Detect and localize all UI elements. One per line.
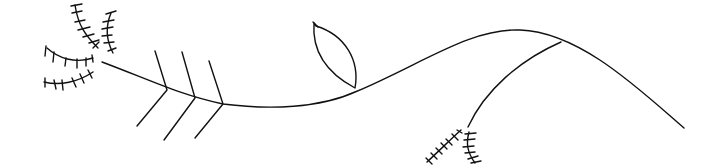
side-branch xyxy=(468,42,561,127)
line-drawing xyxy=(0,0,719,167)
barbed-strokes xyxy=(44,4,481,164)
fletching xyxy=(137,51,223,140)
leaf xyxy=(314,23,356,88)
